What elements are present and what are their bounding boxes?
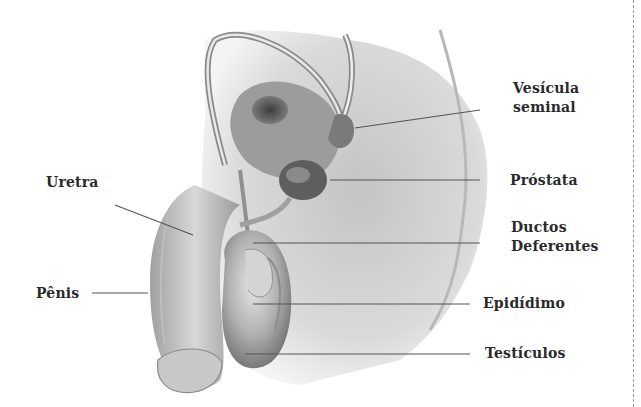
anatomy-diagram: Vesícula seminal Próstata Uretra Ductos … — [0, 0, 641, 407]
label-vesicula-line1: Vesícula — [513, 79, 579, 98]
dashed-border-divider — [633, 0, 634, 407]
label-vesicula-line2: seminal — [513, 98, 576, 117]
label-testiculos: Testículos — [485, 344, 566, 363]
label-penis: Pênis — [36, 284, 79, 303]
prostate — [279, 160, 327, 200]
label-ductos-line1: Ductos — [511, 218, 567, 237]
label-prostata: Próstata — [510, 171, 578, 190]
label-epididimo: Epidídimo — [483, 294, 565, 313]
label-ductos-line2: Deferentes — [511, 237, 599, 256]
label-uretra: Uretra — [46, 173, 99, 192]
